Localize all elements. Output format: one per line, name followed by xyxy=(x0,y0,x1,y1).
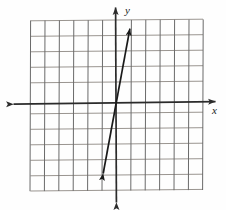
figure-background xyxy=(0,0,226,210)
y-axis-label: y xyxy=(124,4,130,16)
coordinate-plane-figure: y x xyxy=(0,0,226,210)
x-axis-label: x xyxy=(211,104,217,116)
